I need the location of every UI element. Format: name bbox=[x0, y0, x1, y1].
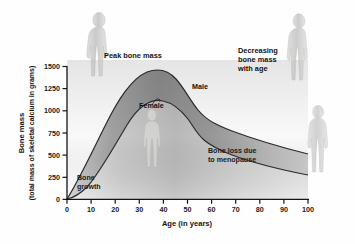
decreasing-line3: with age bbox=[237, 64, 268, 73]
x-axis bbox=[67, 199, 310, 203]
x-tick-80: 80 bbox=[256, 205, 264, 214]
x-axis-title: Age (in years) bbox=[162, 219, 213, 228]
bone-growth-line1: Bone bbox=[77, 174, 95, 182]
annotation-bone-loss-menopause: Bone loss due to menopause bbox=[208, 147, 257, 164]
bone-mass-chart-figure: 1500 1250 1000 750 500 250 0 0 10 20 30 … bbox=[0, 0, 355, 244]
x-tick-100: 100 bbox=[302, 205, 314, 214]
x-tick-40: 40 bbox=[159, 205, 167, 214]
y-tick-1500: 1500 bbox=[44, 62, 60, 71]
bone-mass-vs-age-chart: 1500 1250 1000 750 500 250 0 0 10 20 30 … bbox=[0, 0, 355, 244]
y-tick-750: 750 bbox=[48, 129, 60, 138]
x-tick-90: 90 bbox=[280, 205, 288, 214]
y-tick-1250: 1250 bbox=[44, 84, 60, 93]
x-tick-0: 0 bbox=[65, 205, 69, 214]
x-tick-50: 50 bbox=[184, 205, 192, 214]
x-tick-30: 30 bbox=[135, 205, 143, 214]
y-axis bbox=[63, 66, 68, 200]
x-tick-60: 60 bbox=[208, 205, 216, 214]
bone-loss-line1: Bone loss due bbox=[208, 147, 257, 155]
annotation-peak-bone-mass: Peak bone mass bbox=[104, 51, 162, 60]
x-tick-70: 70 bbox=[232, 205, 240, 214]
decreasing-line2: bone mass bbox=[238, 55, 277, 64]
y-tick-250: 250 bbox=[48, 173, 60, 182]
x-tick-20: 20 bbox=[111, 205, 119, 214]
y-tick-1000: 1000 bbox=[44, 106, 60, 115]
y-axis-title-line2: (total mass of skeletal calcium in grams… bbox=[28, 66, 36, 201]
x-tick-10: 10 bbox=[87, 205, 95, 214]
bone-loss-line2: to menopause bbox=[208, 156, 256, 164]
bone-growth-line2: growth bbox=[77, 183, 101, 191]
series-label-male: Male bbox=[192, 82, 208, 91]
y-tick-500: 500 bbox=[48, 151, 60, 160]
series-label-female: Female bbox=[139, 101, 164, 110]
y-axis-title-line1: Bone mass bbox=[17, 113, 26, 154]
decreasing-line1: Decreasing bbox=[238, 46, 278, 55]
female-figure-older bbox=[308, 105, 328, 172]
y-tick-0: 0 bbox=[56, 195, 60, 204]
